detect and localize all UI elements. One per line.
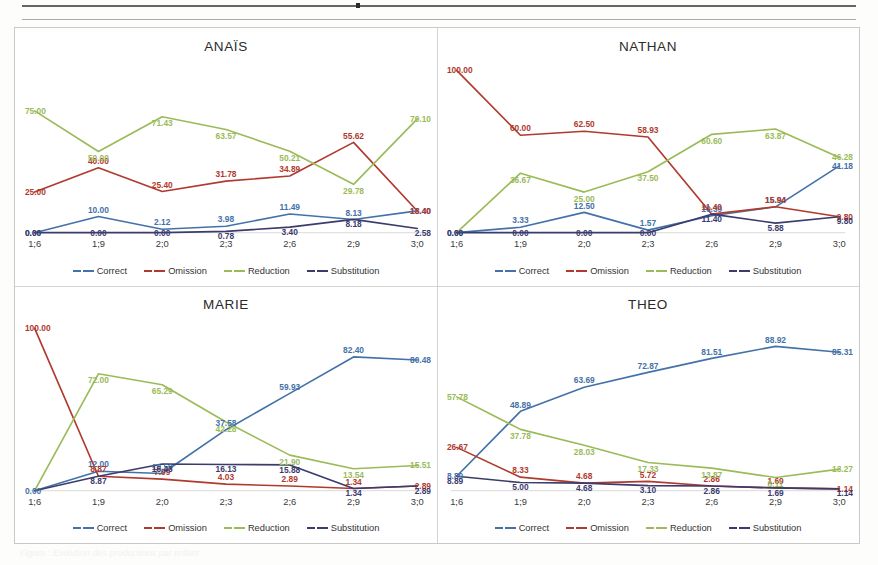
x-tick-label: 2;3 xyxy=(641,497,654,507)
legend-label: Substitution xyxy=(331,266,380,276)
data-label-correct: 88.92 xyxy=(765,334,786,344)
data-label-reduction: 29.78 xyxy=(343,186,364,196)
legend-label: Omission xyxy=(168,523,207,533)
data-label-reduction: 17.33 xyxy=(638,464,659,474)
chart-title: THEO xyxy=(443,295,853,315)
x-tick-label: 3;0 xyxy=(833,497,846,507)
chart-legend: CorrectOmissionReductionSubstitution xyxy=(443,258,853,284)
data-label-omission: 34.89 xyxy=(279,164,300,174)
data-label-substitution: 0.00 xyxy=(90,229,107,239)
data-label-reduction: 63.87 xyxy=(765,131,786,141)
figure-frame: ANAÏS 1;61;92;02;32;62;93;00.0010.002.12… xyxy=(14,27,860,544)
data-label-substitution: 4.68 xyxy=(576,482,593,492)
data-label-reduction: 28.03 xyxy=(574,446,595,456)
page-rule-second xyxy=(22,19,856,20)
legend-swatch-icon xyxy=(144,270,152,272)
legend-item-correct[interactable]: Correct xyxy=(495,523,549,533)
data-label-substitution: 2.89 xyxy=(415,485,431,495)
data-label-correct: 2.12 xyxy=(154,218,171,228)
data-label-substitution: 0.00 xyxy=(576,229,593,239)
legend-item-reduction[interactable]: Reduction xyxy=(646,266,712,276)
x-tick-label: 2;0 xyxy=(156,497,169,507)
data-label-reduction: 63.57 xyxy=(216,131,237,141)
x-tick-label: 3;0 xyxy=(833,239,846,249)
data-label-omission: 58.93 xyxy=(638,125,659,135)
legend-label: Correct xyxy=(97,523,127,533)
data-label-omission: 11.40 xyxy=(702,202,723,212)
data-label-reduction: 13.87 xyxy=(701,469,722,479)
legend-item-reduction[interactable]: Reduction xyxy=(224,266,290,276)
data-label-correct: 10.00 xyxy=(88,205,109,215)
legend-item-correct[interactable]: Correct xyxy=(495,266,549,276)
x-tick-label: 1;9 xyxy=(92,497,105,507)
chart-panel-marie: MARIE 1;61;92;02;32;62;93;00.0012.0010.5… xyxy=(15,286,437,544)
x-tick-label: 2;6 xyxy=(705,239,718,249)
data-label-omission: 31.78 xyxy=(216,169,237,179)
line-chart-svg: 1;61;92;02;32;62;93;00.0010.002.123.9811… xyxy=(21,57,431,258)
data-label-reduction: 15.51 xyxy=(410,460,431,470)
legend-item-substitution[interactable]: Substitution xyxy=(729,266,802,276)
legend-item-omission[interactable]: Omission xyxy=(566,266,629,276)
data-label-reduction: 13.27 xyxy=(832,464,853,474)
data-label-substitution: 16.13 xyxy=(216,464,237,474)
legend-item-omission[interactable]: Omission xyxy=(144,266,207,276)
legend-item-substitution[interactable]: Substitution xyxy=(729,523,802,533)
legend-item-correct[interactable]: Correct xyxy=(73,523,127,533)
x-tick-label: 2;6 xyxy=(283,497,296,507)
data-label-substitution: 0.00 xyxy=(25,229,42,239)
data-label-reduction: 37.50 xyxy=(638,173,659,183)
legend-swatch-icon xyxy=(566,270,574,272)
legend-swatch-icon xyxy=(224,527,232,529)
legend-item-reduction[interactable]: Reduction xyxy=(224,523,290,533)
x-tick-label: 1;6 xyxy=(450,239,463,249)
data-label-correct: 81.51 xyxy=(701,346,722,356)
data-label-substitution: 15.88 xyxy=(279,464,300,474)
legend-item-substitution[interactable]: Substitution xyxy=(307,523,380,533)
data-label-omission: 8.33 xyxy=(512,465,529,475)
data-label-omission: 100.00 xyxy=(447,65,473,75)
data-label-reduction: 70.10 xyxy=(410,114,431,124)
legend-swatch-icon xyxy=(73,527,81,529)
data-label-omission: 60.00 xyxy=(510,124,531,134)
data-label-substitution: 0.78 xyxy=(218,231,235,241)
legend-swatch-line-icon xyxy=(234,527,245,529)
x-tick-label: 2;9 xyxy=(347,497,360,507)
legend-swatch-line-icon xyxy=(576,270,587,272)
data-label-reduction: 57.78 xyxy=(447,391,468,401)
plot-area: 1;61;92;02;32;62;93;00.0012.0010.5937.58… xyxy=(21,315,431,516)
chart-panel-anais: ANAÏS 1;61;92;02;32;62;93;00.0010.002.12… xyxy=(15,28,437,286)
legend-label: Omission xyxy=(590,523,629,533)
line-chart-svg: 1;61;92;02;32;62;93;08.8948.8963.6972.87… xyxy=(443,315,853,516)
legend-swatch-icon xyxy=(729,527,737,529)
x-tick-label: 1;9 xyxy=(514,497,527,507)
legend-swatch-icon xyxy=(646,270,654,272)
legend-label: Correct xyxy=(97,266,127,276)
legend-label: Substitution xyxy=(753,523,802,533)
data-label-omission: 15.94 xyxy=(765,195,786,205)
x-tick-label: 1;6 xyxy=(450,497,463,507)
legend-swatch-line-icon xyxy=(234,270,245,272)
legend-label: Omission xyxy=(168,266,207,276)
legend-item-reduction[interactable]: Reduction xyxy=(646,523,712,533)
legend-swatch-line-icon xyxy=(317,527,328,529)
data-label-substitution: 3.40 xyxy=(282,227,299,237)
legend-item-omission[interactable]: Omission xyxy=(566,523,629,533)
legend-item-correct[interactable]: Correct xyxy=(73,266,127,276)
data-label-reduction: 42.28 xyxy=(216,423,237,433)
chart-legend: CorrectOmissionReductionSubstitution xyxy=(443,515,853,541)
legend-label: Correct xyxy=(519,266,549,276)
data-label-omission: 8.87 xyxy=(90,464,107,474)
legend-item-substitution[interactable]: Substitution xyxy=(307,266,380,276)
legend-swatch-icon xyxy=(495,270,503,272)
x-tick-label: 2;3 xyxy=(219,497,232,507)
data-label-correct: 72.87 xyxy=(638,360,659,370)
data-label-omission: 100.00 xyxy=(25,323,51,333)
chart-title: NATHAN xyxy=(443,37,853,57)
page-canvas: ANAÏS 1;61;92;02;32;62;93;00.0010.002.12… xyxy=(0,0,878,565)
legend-swatch-line-icon xyxy=(83,270,94,272)
data-label-correct: 3.98 xyxy=(218,214,235,224)
data-label-substitution: 9.80 xyxy=(837,216,853,226)
data-label-correct: 80.48 xyxy=(410,355,431,365)
data-label-substitution: 0.00 xyxy=(154,229,171,239)
legend-item-omission[interactable]: Omission xyxy=(144,523,207,533)
